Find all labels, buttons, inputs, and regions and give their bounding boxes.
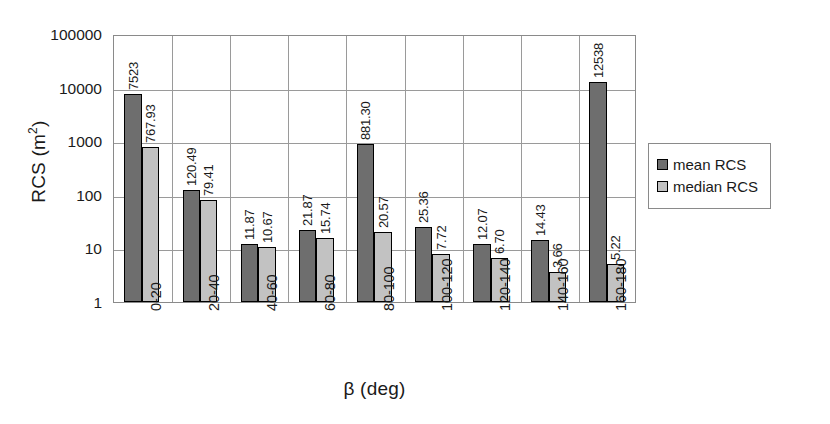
bar-value-label: 12538 [592,43,605,78]
bar-mean[interactable] [473,244,490,302]
bar-mean[interactable] [183,190,200,302]
x-axis-tick-label: 140-160 [555,258,571,311]
y-axis-tick-label: 100000 [8,26,108,44]
rcs-bar-chart: RCS (m2) 100000100001000100101 7523767.9… [0,0,830,424]
bar-value-label: 10.67 [261,211,274,243]
bar-mean[interactable] [241,244,258,302]
bar-value-label: 14.43 [534,204,547,236]
y-axis-ticks: 100000100001000100101 [8,0,108,424]
bar-value-label: 25.36 [417,191,430,223]
bar-value-label: 6.70 [493,229,506,254]
legend-item-label: mean RCS [673,156,746,173]
y-axis-tick-label: 1000 [8,133,108,151]
bar-mean[interactable] [124,94,141,302]
x-axis-ticks: 0-2020-4040-6060-8080-100100-120120-1401… [113,303,636,373]
legend-item[interactable]: median RCS [657,178,758,195]
bar-value-label: 120.49 [185,148,198,187]
bar-median[interactable] [142,147,159,302]
legend-item[interactable]: mean RCS [657,156,758,173]
bar-mean[interactable] [299,230,316,302]
bar-value-label: 767.93 [144,105,157,144]
bar-value-label: 79.41 [202,165,215,197]
bar-value-label: 15.74 [319,202,332,234]
y-axis-tick-label: 10000 [8,80,108,98]
bar-value-label: 12.07 [476,208,489,240]
x-axis-tick-label: 0-20 [148,282,164,311]
bar-value-label: 7523 [127,62,140,90]
bar-group: 21.8715.74 [288,36,346,302]
x-axis-tick-label: 160-180 [613,258,629,311]
chart-legend: mean RCSmedian RCS [648,143,771,209]
bar-value-label: 5.22 [609,235,622,260]
bar-mean[interactable] [589,82,606,302]
bar-group: 881.3020.57 [346,36,404,302]
x-axis-tick-label: 20-40 [206,274,222,311]
x-axis-tick-label: 60-80 [322,274,338,311]
x-axis-tick-label: 80-100 [381,266,397,311]
x-axis-tick-label: 40-60 [264,274,280,311]
legend-swatch-icon [657,159,668,170]
x-axis-title: β (deg) [113,378,636,400]
bar-group: 7523767.93 [114,36,172,302]
legend-swatch-icon [657,181,668,192]
bar-group: 120.4979.41 [172,36,230,302]
bar-value-label: 21.87 [301,195,314,227]
bar-group: 11.8710.67 [230,36,288,302]
bar-mean[interactable] [531,240,548,302]
bar-value-label: 11.87 [243,210,256,241]
bar-value-label: 881.30 [359,102,372,141]
bar-value-label: 7.72 [435,226,448,251]
y-axis-tick-label: 100 [8,187,108,205]
bar-value-label: 20.57 [377,196,390,228]
y-axis-tick-label: 1 [8,294,108,312]
x-axis-tick-label: 120-140 [497,258,513,311]
y-axis-tick-label: 10 [8,240,108,258]
x-axis-tick-label: 100-120 [439,258,455,311]
bar-mean[interactable] [357,144,374,302]
legend-item-label: median RCS [673,178,758,195]
bar-mean[interactable] [415,227,432,302]
